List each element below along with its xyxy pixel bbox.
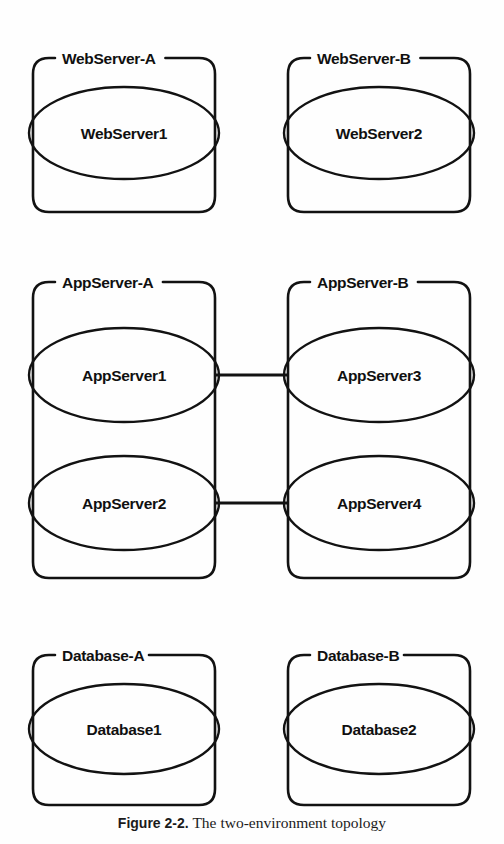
figure-page: WebServer-AWebServer1WebServer-BWebServe… (0, 0, 504, 844)
node-database1[interactable]: Database1 (29, 684, 219, 774)
group-label-database-b: Database-B (317, 647, 399, 664)
group-database-b: Database-BDatabase2 (284, 647, 474, 806)
node-appserver3[interactable]: AppServer3 (284, 328, 474, 422)
group-label-webserver-a: WebServer-A (62, 50, 156, 67)
connectors (215, 375, 288, 503)
node-label-database2: Database2 (342, 721, 417, 738)
figure-caption: Figure 2-2. The two-environment topology (0, 814, 504, 832)
node-label-database1: Database1 (87, 721, 163, 738)
group-appserver-b: AppServer-BAppServer3AppServer4 (284, 274, 474, 579)
figure-caption-body: The two-environment topology (192, 814, 386, 831)
node-label-appserver1: AppServer1 (82, 367, 167, 384)
group-appserver-a: AppServer-AAppServer1AppServer2 (29, 274, 219, 579)
node-database2[interactable]: Database2 (284, 684, 474, 774)
node-label-appserver2: AppServer2 (82, 495, 166, 512)
node-appserver1[interactable]: AppServer1 (29, 328, 219, 422)
group-label-appserver-b: AppServer-B (317, 274, 409, 291)
group-label-appserver-a: AppServer-A (62, 274, 154, 291)
tier-app-tier: AppServer-AAppServer1AppServer2AppServer… (29, 274, 474, 579)
node-label-appserver4: AppServer4 (337, 495, 422, 512)
node-label-webserver1: WebServer1 (81, 125, 168, 142)
group-webserver-a: WebServer-AWebServer1 (29, 50, 219, 213)
topology-diagram: WebServer-AWebServer1WebServer-BWebServe… (0, 0, 504, 844)
node-webserver2[interactable]: WebServer2 (284, 87, 474, 179)
tier-database-tier: Database-ADatabase1Database-BDatabase2 (29, 647, 474, 806)
node-label-webserver2: WebServer2 (336, 125, 422, 142)
node-webserver1[interactable]: WebServer1 (29, 87, 219, 179)
group-webserver-b: WebServer-BWebServer2 (284, 50, 474, 213)
group-database-a: Database-ADatabase1 (29, 647, 219, 806)
tier-web-tier: WebServer-AWebServer1WebServer-BWebServe… (29, 50, 474, 213)
group-label-webserver-b: WebServer-B (317, 50, 411, 67)
node-appserver2[interactable]: AppServer2 (29, 456, 219, 550)
node-appserver4[interactable]: AppServer4 (284, 456, 474, 550)
group-label-database-a: Database-A (62, 647, 144, 664)
node-label-appserver3: AppServer3 (337, 367, 422, 384)
figure-caption-number: Figure 2-2. (118, 815, 189, 831)
